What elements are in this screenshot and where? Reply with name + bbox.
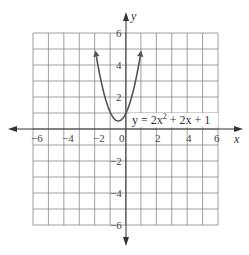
x-tick-0: 0 <box>119 132 125 144</box>
x-tick-p4: 4 <box>186 132 192 144</box>
y-tick-p2: 2 <box>116 91 122 103</box>
x-tick-m6: −6 <box>31 132 43 144</box>
y-tick-m6: −6 <box>110 219 122 231</box>
x-tick-p2: 2 <box>155 132 161 144</box>
parabola-chart: y x −6 −4 −2 0 2 4 6 6 4 2 −2 −4 −6 y = … <box>0 0 249 255</box>
x-axis-label: x <box>233 132 240 146</box>
curve-arrow-right <box>137 51 143 57</box>
y-tick-m2: −2 <box>110 155 122 167</box>
equation-label: y = 2x2 + 2x + 1 <box>132 112 210 127</box>
x-tick-p6: 6 <box>214 132 220 144</box>
x-tick-m4: −4 <box>62 132 74 144</box>
curve-arrow-left <box>93 51 99 57</box>
y-tick-m4: −4 <box>110 187 122 199</box>
y-axis-label: y <box>130 9 137 23</box>
y-tick-p6: 6 <box>116 27 122 39</box>
y-tick-p4: 4 <box>116 59 122 71</box>
x-tick-m2: −2 <box>93 132 105 144</box>
